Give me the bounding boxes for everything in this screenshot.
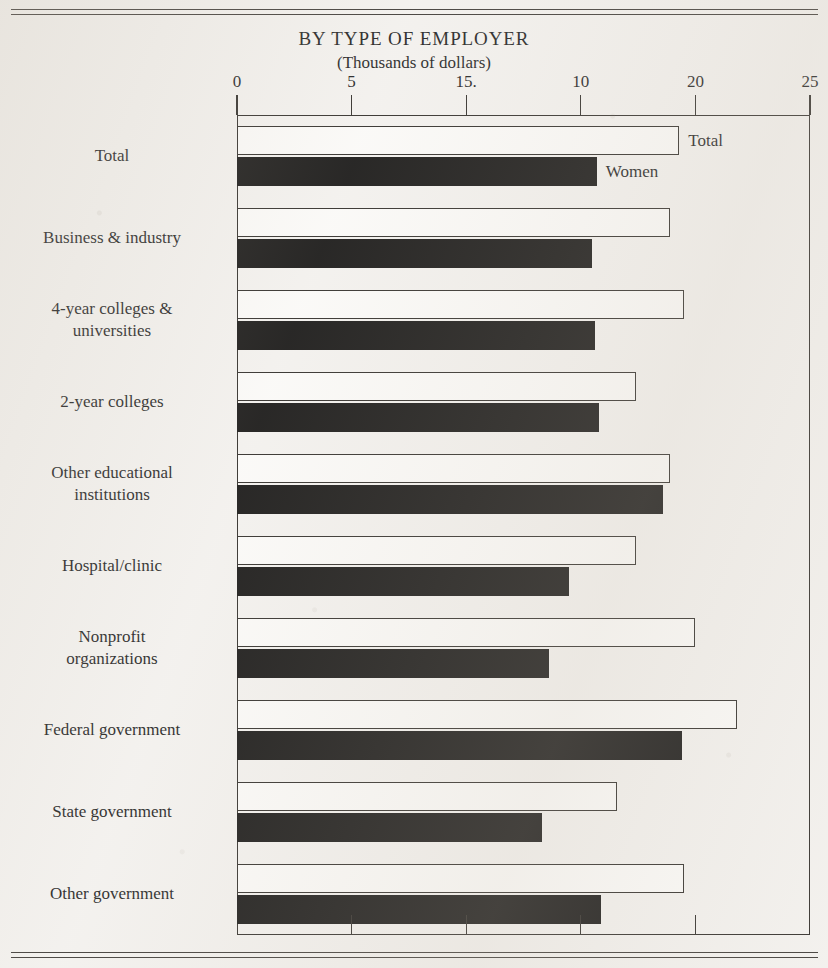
x-tick-bottom (580, 915, 581, 935)
bar-total (237, 372, 636, 401)
x-tick-bottom (695, 915, 696, 935)
x-tick-label: 5 (347, 72, 356, 92)
x-tick-label: 25 (802, 72, 819, 92)
bar-total (237, 618, 695, 647)
x-tick-label: 15. (456, 72, 477, 92)
chart-title-block: BY TYPE OF EMPLOYER (Thousands of dollar… (0, 26, 828, 74)
x-tick-label: 0 (233, 72, 242, 92)
bars-layer (237, 115, 810, 935)
x-tick-top (466, 95, 467, 115)
category-label-line: institutions (0, 484, 224, 506)
category-label-line: Other educational (0, 462, 224, 484)
category-label-line: organizations (0, 648, 224, 670)
x-tick-top (236, 95, 237, 115)
x-tick-label: 20 (687, 72, 704, 92)
category-label: Other educationalinstitutions (0, 462, 224, 506)
bar-women (237, 157, 597, 186)
category-label-line: State government (0, 801, 224, 823)
category-label: Total (0, 145, 224, 167)
bar-total (237, 782, 617, 811)
x-tick-top (580, 95, 581, 115)
bar-women (237, 485, 663, 514)
category-label-line: Federal government (0, 719, 224, 741)
x-tick-bottom (466, 915, 467, 935)
bar-women (237, 567, 569, 596)
bar-total (237, 126, 679, 155)
bar-women (237, 813, 542, 842)
category-label-line: 2-year colleges (0, 391, 224, 413)
category-label: Other government (0, 883, 224, 905)
x-axis-top-ticks (237, 95, 810, 115)
category-label: Hospital/clinic (0, 555, 224, 577)
x-tick-top (809, 95, 810, 115)
bar-total (237, 290, 684, 319)
x-tick-bottom (351, 915, 352, 935)
category-label-line: Nonprofit (0, 626, 224, 648)
bar-women (237, 403, 599, 432)
category-label: Business & industry (0, 227, 224, 249)
x-axis-tick-labels: 0515.102025 (0, 72, 828, 96)
category-label: Federal government (0, 719, 224, 741)
bar-total (237, 536, 636, 565)
category-label-line: 4-year colleges & (0, 298, 224, 320)
x-tick-label: 10 (572, 72, 589, 92)
bar-total (237, 864, 684, 893)
bar-women (237, 731, 682, 760)
x-tick-top (351, 95, 352, 115)
bar-total (237, 454, 670, 483)
category-label-line: Hospital/clinic (0, 555, 224, 577)
category-label: State government (0, 801, 224, 823)
category-label-line: Business & industry (0, 227, 224, 249)
chart-subtitle: (Thousands of dollars) (0, 51, 828, 74)
bar-women (237, 321, 595, 350)
x-tick-top (695, 95, 696, 115)
chart-title: BY TYPE OF EMPLOYER (0, 26, 828, 51)
bar-women (237, 649, 549, 678)
category-label: 2-year colleges (0, 391, 224, 413)
category-label-line: universities (0, 320, 224, 342)
top-double-rule (11, 9, 818, 15)
bar-total (237, 208, 670, 237)
category-labels: TotalBusiness & industry4-year colleges … (0, 115, 232, 935)
bottom-double-rule (11, 952, 818, 958)
category-label: Nonprofitorganizations (0, 626, 224, 670)
legend-label-total: Total (688, 131, 723, 151)
category-label: 4-year colleges &universities (0, 298, 224, 342)
x-axis-bottom-ticks (237, 915, 810, 935)
category-label-line: Other government (0, 883, 224, 905)
bar-women (237, 239, 592, 268)
legend-label-women: Women (606, 162, 658, 182)
bar-total (237, 700, 737, 729)
category-label-line: Total (0, 145, 224, 167)
